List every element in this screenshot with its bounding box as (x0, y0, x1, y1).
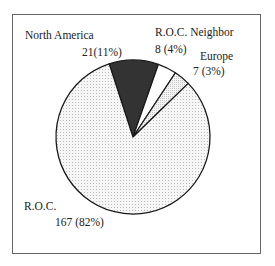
value-north-america: 21(11%) (82, 47, 122, 59)
label-europe: Europe (200, 51, 233, 63)
value-roc: 167 (82%) (55, 217, 104, 229)
value-roc-neighbor: 8 (4%) (155, 44, 187, 56)
value-europe: 7 (3%) (193, 66, 225, 78)
label-roc: R.O.C. (24, 201, 56, 213)
label-roc-neighbor: R.O.C. Neighbor (155, 27, 234, 39)
label-north-america: North America (25, 30, 94, 42)
